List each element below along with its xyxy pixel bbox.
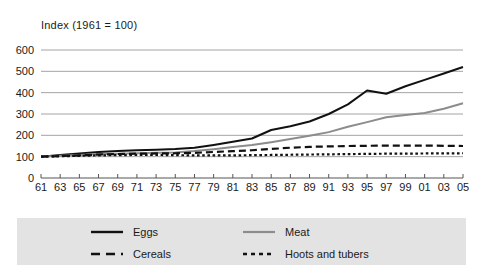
legend-label-eggs: Eggs (133, 226, 158, 238)
y-axis-tick-label: 0 (28, 172, 34, 184)
x-axis-tick-label: 03 (438, 181, 450, 193)
y-axis-tick-label: 600 (16, 44, 34, 56)
legend-swatch-roots-dotted-line-icon (242, 248, 276, 260)
legend-swatch-meat-solid-line-icon (242, 226, 276, 238)
x-axis-tick-label: 81 (227, 181, 239, 193)
x-axis-tick-label: 93 (342, 181, 354, 193)
legend-item-meat: Meat (242, 224, 420, 239)
gridlines-group (41, 50, 463, 157)
x-axis-tick-label: 75 (169, 181, 181, 193)
legend-label-meat: Meat (285, 226, 309, 238)
chart-container: Index (1961 = 100) 0100200300400500600 6… (0, 0, 484, 275)
x-axis-tick-label: 89 (303, 181, 315, 193)
x-axis-tick-label: 65 (73, 181, 85, 193)
y-axis-tick-labels: 0100200300400500600 (16, 44, 34, 184)
y-axis-tick-label: 300 (16, 108, 34, 120)
x-axis-tick-label: 71 (131, 181, 143, 193)
y-axis-tick-label: 200 (16, 129, 34, 141)
x-axis-tick-labels: 6163656769717375777981838587899193959799… (35, 181, 469, 193)
legend-label-cereals: Cereals (133, 248, 171, 260)
x-axis-tick-label: 05 (457, 181, 469, 193)
legend-item-eggs: Eggs (90, 224, 242, 239)
x-axis-tick-label: 87 (284, 181, 296, 193)
x-axis-tick-label: 91 (323, 181, 335, 193)
x-axis-tick-label: 99 (399, 181, 411, 193)
x-axis-tick-label: 97 (380, 181, 392, 193)
x-axis-tick-label: 67 (92, 181, 104, 193)
x-axis-tick-label: 85 (265, 181, 277, 193)
legend-label-roots-and-tubers: Hoots and tubers (285, 248, 369, 260)
x-axis-tick-label: 77 (188, 181, 200, 193)
x-axis-tick-label: 95 (361, 181, 373, 193)
x-axis-tick-label: 83 (246, 181, 258, 193)
series-line-meat (41, 103, 463, 156)
x-axis-tick-label: 61 (35, 181, 47, 193)
x-axis-line-and-ticks (41, 174, 463, 178)
series-line-eggs (41, 67, 463, 157)
x-axis-tick-label: 01 (419, 181, 431, 193)
legend-item-cereals: Cereals (90, 246, 242, 261)
y-axis-tick-label: 500 (16, 65, 34, 77)
legend-swatch-eggs-solid-line-icon (90, 226, 124, 238)
x-axis-tick-label: 79 (208, 181, 220, 193)
y-axis-tick-label: 400 (16, 87, 34, 99)
x-axis-tick-label: 69 (112, 181, 124, 193)
data-series-group (41, 67, 463, 157)
chart-legend: Eggs Meat Cereals Hoots and tubers (90, 224, 420, 261)
x-axis-tick-label: 63 (54, 181, 66, 193)
legend-item-roots-and-tubers: Hoots and tubers (242, 246, 420, 261)
legend-swatch-cereals-dashed-line-icon (90, 248, 124, 260)
x-axis-tick-label: 73 (150, 181, 162, 193)
y-axis-tick-label: 100 (16, 151, 34, 163)
